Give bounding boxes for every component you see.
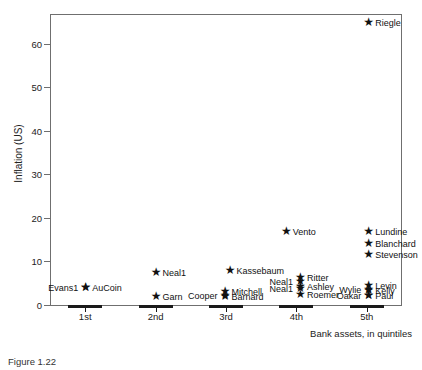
data-point-label: AuCoin [92, 282, 122, 294]
data-point-label: Neal1 [163, 267, 187, 279]
star-marker-icon: ★ [363, 289, 374, 302]
data-point-label: Garn [163, 291, 183, 303]
y-tick-mark [44, 44, 50, 45]
star-marker-icon: ★ [295, 288, 306, 301]
x-tick-label-5th: 5th [337, 311, 397, 322]
star-marker-icon: ★ [80, 281, 91, 294]
y-tick-mark [44, 218, 50, 219]
x-tick-label-2nd: 2nd [126, 311, 186, 322]
data-point-label: Lundine [375, 226, 407, 238]
star-marker-icon: ★ [151, 290, 162, 303]
data-point-label: Stevenson [375, 249, 418, 261]
star-marker-icon: ★ [225, 264, 236, 277]
x-axis-label: Bank assets, in quintiles [0, 328, 412, 339]
x-tick-label-4th: 4th [266, 311, 326, 322]
x-tick-label-3rd: 3rd [196, 311, 256, 322]
y-tick-mark [44, 131, 50, 132]
data-point-label: Neal1 [269, 283, 293, 295]
y-tick-label-10: 10 [0, 256, 50, 268]
star-marker-icon: ★ [363, 248, 374, 261]
x-tick-label-1st: 1st [55, 311, 115, 322]
data-point-label: Paul [375, 290, 393, 302]
star-marker-icon: ★ [363, 16, 374, 29]
y-tick-label-50: 50 [0, 82, 50, 94]
y-axis-label: Inflation (US) [13, 74, 24, 234]
data-point-label: Barnard [232, 291, 264, 303]
y-tick-mark [44, 87, 50, 88]
star-marker-icon: ★ [151, 266, 162, 279]
star-marker-icon: ★ [281, 225, 292, 238]
y-tick-label-40: 40 [0, 126, 50, 138]
y-tick-label-0: 0 [0, 300, 50, 312]
figure-caption: Figure 1.22 [8, 356, 56, 368]
y-tick-label-30: 30 [0, 169, 50, 181]
y-tick-mark [44, 174, 50, 175]
y-tick-label-60: 60 [0, 39, 50, 51]
data-point-label: Riegle [375, 17, 401, 29]
y-tick-label-20: 20 [0, 213, 50, 225]
figure-container: 0102030405060 Inflation (US) 1st2nd3rd4t… [0, 0, 422, 370]
data-point-label: Blanchard [375, 238, 416, 250]
data-point-label: Evans1 [48, 282, 78, 294]
y-tick-mark [44, 261, 50, 262]
data-point-label: Vento [293, 226, 316, 238]
star-marker-icon: ★ [220, 290, 231, 303]
data-point-label: Cooper [188, 290, 218, 302]
data-point-label: Oakar [337, 290, 362, 302]
y-tick-mark [44, 305, 50, 306]
data-point-label: Roemer [307, 289, 339, 301]
